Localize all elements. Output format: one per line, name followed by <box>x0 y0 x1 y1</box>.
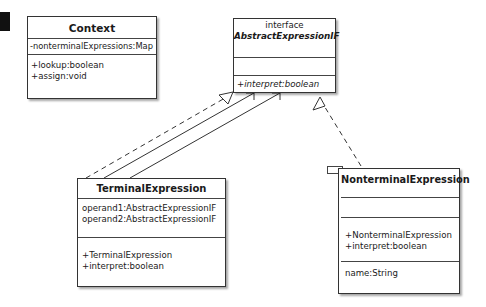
operations-section: +interpret:boolean <box>234 75 335 93</box>
class-context[interactable]: Context -nonterminalExpressions:Map +loo… <box>27 16 157 99</box>
attribute: -nonterminalExpressions:Map <box>30 41 154 52</box>
operation: +interpret:boolean <box>237 79 332 90</box>
attribute: operand1:AbstractExpressionIF <box>82 203 221 214</box>
class-nonterminal-expression[interactable]: NonterminalExpression +NonterminalExpres… <box>338 168 460 294</box>
attribute: operand2:AbstractExpressionIF <box>82 214 221 225</box>
hollow-triangle-arrowhead-icon <box>313 97 325 110</box>
extra-section: name:String <box>341 261 459 285</box>
class-name: Context <box>28 17 156 38</box>
association-edge-operand1 <box>104 93 254 178</box>
operations-section: +NonterminalExpression +interpret:boolea… <box>341 217 459 261</box>
attributes-section: -nonterminalExpressions:Map <box>28 38 156 54</box>
operation: +NonterminalExpression <box>345 230 455 241</box>
attribute: name:String <box>345 268 455 279</box>
operation: +interpret:boolean <box>345 241 455 252</box>
realization-edge-terminal <box>86 98 225 178</box>
attributes-section <box>341 197 459 217</box>
header-section: interface AbstractExpressionIF <box>234 19 335 57</box>
attributes-section: operand1:AbstractExpressionIF operand2:A… <box>78 198 225 237</box>
operation: +TerminalExpression <box>82 250 221 261</box>
class-name: NonterminalExpression <box>339 169 459 197</box>
stereotype-label: interface <box>234 20 335 31</box>
operation: +interpret:boolean <box>82 261 221 272</box>
class-name: TerminalExpression <box>78 179 225 198</box>
interface-abstract-expression[interactable]: interface AbstractExpressionIF +interpre… <box>233 18 336 93</box>
operation: +lookup:boolean <box>31 60 153 71</box>
interface-name: AbstractExpressionIF <box>234 31 335 42</box>
realization-edge-nonterminal <box>323 104 361 166</box>
operation: +assign:void <box>31 71 153 82</box>
association-edge-operand2 <box>130 93 280 178</box>
class-terminal-expression[interactable]: TerminalExpression operand1:AbstractExpr… <box>77 178 226 287</box>
hollow-triangle-arrowhead-icon <box>219 92 233 104</box>
operations-section: +lookup:boolean +assign:void <box>28 54 156 87</box>
operations-section: +TerminalExpression +interpret:boolean <box>78 237 225 276</box>
attributes-section <box>234 57 335 75</box>
